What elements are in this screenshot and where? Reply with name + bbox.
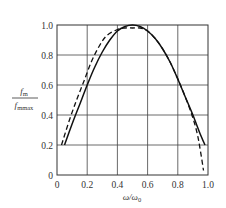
x-axis-label: ω/ω0 [123,192,141,203]
svg-text:fmmax: fmmax [15,100,35,111]
grid-lines [57,25,208,175]
y-tick-label: 0.8 [41,51,53,61]
x-tick-label: 0.4 [111,180,123,190]
chart: 00.20.40.60.81.0 00.20.40.60.81.0 fm fmm… [0,0,226,208]
y-tick-label: 0.2 [41,141,53,151]
x-tick-label: 0 [55,180,60,190]
svg-text:fm: fm [20,86,28,97]
x-tick-label: 0.8 [172,180,184,190]
x-tick-label: 0.6 [142,180,154,190]
dashed-curve [62,28,204,171]
x-axis-ticks: 00.20.40.60.81.0 [55,180,215,190]
y-axis-label: fm fmmax [12,86,38,111]
y-axis-ticks: 00.20.40.60.81.0 [41,21,53,181]
x-tick-label: 0.2 [81,180,93,190]
y-tick-label: 0 [48,171,53,181]
y-tick-label: 1.0 [41,21,53,31]
x-tick-label: 1.0 [202,180,214,190]
plot-frame [57,25,208,175]
y-tick-label: 0.4 [41,111,53,121]
y-tick-label: 0.6 [41,81,53,91]
